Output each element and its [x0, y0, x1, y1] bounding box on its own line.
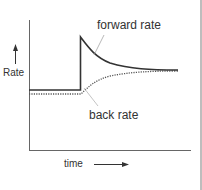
- y-axis-label: Rate: [3, 67, 24, 78]
- x-axis-arrow-icon: [94, 162, 129, 167]
- forward-rate-leader: [94, 35, 104, 55]
- back-rate-leader: [84, 88, 98, 106]
- y-axis-arrow-icon: [13, 44, 18, 64]
- forward-rate-label: forward rate: [97, 18, 161, 32]
- x-axis-label: time: [64, 158, 83, 169]
- back-rate-label: back rate: [89, 108, 138, 122]
- forward-rate-line: [29, 37, 178, 90]
